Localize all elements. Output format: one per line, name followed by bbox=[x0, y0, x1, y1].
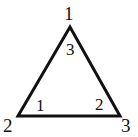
triangle-diagram: 1 2 3 3 1 2 bbox=[0, 0, 138, 137]
angle-label-bottom-left: 1 bbox=[36, 97, 45, 114]
vertex-label-bottom-left: 2 bbox=[3, 116, 13, 135]
angle-label-bottom-right: 2 bbox=[95, 96, 104, 113]
vertex-label-apex: 1 bbox=[64, 4, 74, 23]
vertex-label-bottom-right: 3 bbox=[121, 116, 131, 135]
angle-label-apex: 3 bbox=[66, 41, 75, 58]
